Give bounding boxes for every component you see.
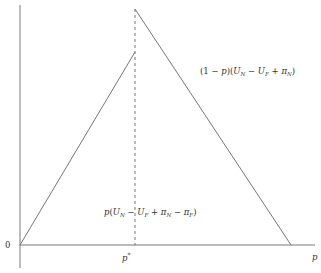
origin-label: 0 [5,240,10,250]
x-axis-label: p [312,252,318,262]
diagram-canvas: 0 p p* (1 − p)(UN − UF + πN) p(UN − UF +… [0,0,321,273]
p-star-label: p* [122,251,130,263]
right-segment-annotation: (1 − p)(UN − UF + πN) [200,66,295,77]
left-segment-annotation: p(UN − UF + πN − πF) [104,207,197,218]
